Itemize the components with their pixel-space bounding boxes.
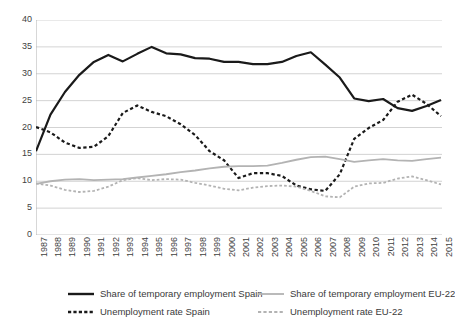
x-tick-label: 2014 <box>430 237 439 257</box>
legend-label: Share of temporary employment EU-22 <box>290 288 455 299</box>
x-tick-label: 2002 <box>256 237 265 257</box>
chart-plot-svg <box>36 20 442 235</box>
legend-item[interactable]: Share of temporary employment Spain <box>68 288 263 299</box>
x-tick-label: 2004 <box>285 237 294 257</box>
x-tick-label: 1990 <box>83 237 92 257</box>
legend-swatch-icon <box>258 289 284 299</box>
x-tick-label: 2006 <box>314 237 323 257</box>
series-line-2 <box>36 157 441 184</box>
x-tick-label: 1999 <box>213 237 222 257</box>
x-tick-label: 2001 <box>242 237 251 257</box>
x-tick-label: 2011 <box>387 237 396 256</box>
legend-swatch-icon <box>68 289 94 299</box>
legend-label: Unemployment rate Spain <box>100 306 210 317</box>
series-layer <box>36 47 441 198</box>
x-tick-label: 1994 <box>141 237 150 257</box>
chart-legend: Share of temporary employment SpainUnemp… <box>0 288 449 326</box>
x-tick-label: 2015 <box>445 237 454 257</box>
x-tick-label: 1993 <box>126 237 135 257</box>
legend-item[interactable]: Unemployment rate EU-22 <box>258 306 402 317</box>
x-tick-label: 2010 <box>372 237 381 257</box>
plot-area <box>36 20 442 235</box>
x-tick-label: 1995 <box>155 237 164 257</box>
legend-item[interactable]: Share of temporary employment EU-22 <box>258 288 455 299</box>
legend-item[interactable]: Unemployment rate Spain <box>68 306 210 317</box>
x-tick-label: 1987 <box>40 237 49 257</box>
y-tick-label: 30 <box>6 69 32 78</box>
x-tick-label: 2007 <box>329 237 338 257</box>
x-tick-label: 2008 <box>343 237 352 257</box>
x-tick-label: 1991 <box>97 237 106 257</box>
x-tick-label: 2013 <box>416 237 425 257</box>
legend-label: Share of temporary employment Spain <box>100 288 263 299</box>
x-axis: 1987198819891990199119921993199419951996… <box>36 237 442 283</box>
legend-swatch-icon <box>258 307 284 317</box>
y-tick-label: 10 <box>6 176 32 185</box>
x-tick-label: 2012 <box>401 237 410 257</box>
x-tick-label: 2005 <box>300 237 309 257</box>
x-tick-label: 1989 <box>68 237 77 257</box>
x-tick-label: 2000 <box>228 237 237 257</box>
gridlines <box>36 20 442 235</box>
y-tick-label: 40 <box>6 15 32 24</box>
y-tick-label: 25 <box>6 96 32 105</box>
y-axis: 0510152025303540 <box>0 0 32 250</box>
x-tick-label: 2009 <box>358 237 367 257</box>
series-line-1 <box>36 95 441 191</box>
legend-swatch-icon <box>68 307 94 317</box>
x-tick-label: 1992 <box>112 237 121 257</box>
x-tick-label: 1988 <box>54 237 63 257</box>
y-tick-label: 20 <box>6 123 32 132</box>
y-tick-label: 5 <box>6 203 32 212</box>
x-tick-label: 1998 <box>199 237 208 257</box>
x-tick-label: 2003 <box>271 237 280 257</box>
series-line-0 <box>36 47 441 151</box>
y-tick-label: 0 <box>6 230 32 239</box>
x-tick-label: 1996 <box>170 237 179 257</box>
y-tick-label: 35 <box>6 42 32 51</box>
x-tick-label: 1997 <box>184 237 193 257</box>
y-tick-label: 15 <box>6 149 32 158</box>
legend-label: Unemployment rate EU-22 <box>290 306 402 317</box>
